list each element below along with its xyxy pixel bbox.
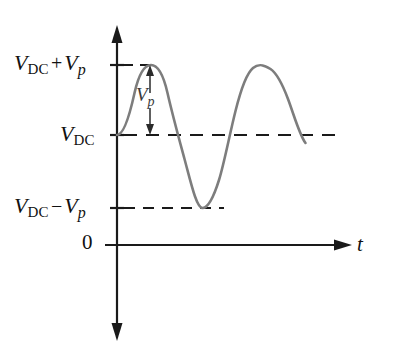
label-top-sub2: p — [78, 61, 86, 78]
label-mid-sub1: DC — [73, 132, 94, 148]
x-axis-arrow-right-icon — [334, 240, 352, 251]
label-bot-v2: V — [64, 193, 77, 218]
label-vdc-plus-vp: VDC+Vp — [14, 52, 86, 78]
amplitude-arrow-down-icon — [146, 124, 154, 135]
label-bot-sub2: p — [78, 204, 86, 221]
y-axis — [112, 25, 123, 341]
label-x-axis-t: t — [357, 234, 363, 255]
label-top-operator: + — [49, 52, 64, 74]
label-vp-v1: V — [136, 84, 148, 105]
label-vp-sub1: p — [148, 94, 155, 109]
label-amplitude-vp: Vp — [136, 85, 155, 109]
label-bot-operator: − — [49, 195, 64, 217]
x-axis — [105, 240, 352, 251]
label-top-sub1: DC — [27, 61, 48, 77]
label-origin: 0 — [82, 232, 93, 253]
waveform-figure: VDC+Vp VDC VDC−Vp 0 t Vp — [0, 0, 395, 352]
label-vdc: VDC — [60, 123, 95, 148]
label-bot-sub1: DC — [27, 204, 48, 220]
label-bot-v1: V — [14, 193, 27, 218]
label-top-v2: V — [64, 50, 77, 75]
label-top-v1: V — [14, 50, 27, 75]
y-axis-arrow-up-icon — [112, 25, 123, 43]
label-vdc-minus-vp: VDC−Vp — [14, 195, 86, 221]
y-axis-arrow-down-icon — [112, 323, 123, 341]
label-mid-v1: V — [60, 121, 73, 146]
